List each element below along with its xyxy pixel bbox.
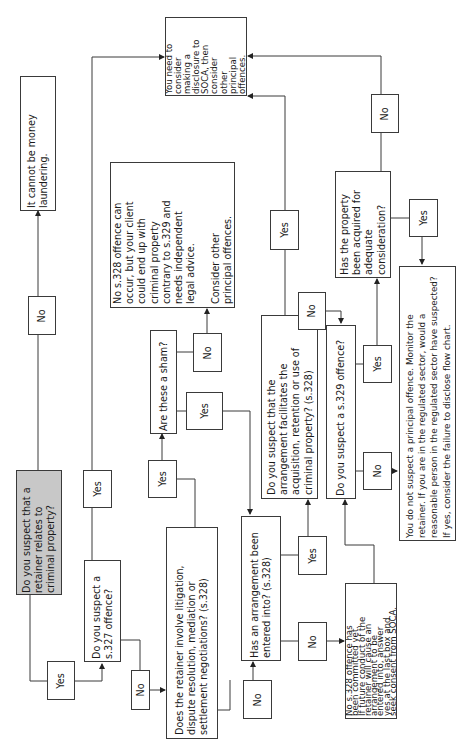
edge-label-facilitates-no: No bbox=[298, 292, 326, 330]
not-money-laundering-text: It cannot be money laundering. bbox=[26, 80, 50, 208]
sham-question-box: Are these a sham? bbox=[150, 330, 177, 434]
edge-label-litigation-yes: Yes bbox=[148, 460, 177, 498]
s329-question-box: Do you suspect a s.329 offence? bbox=[326, 325, 356, 499]
edge-label-consideration-yes: Yes bbox=[409, 199, 438, 237]
edge-label-consideration-no: No bbox=[371, 94, 399, 133]
no-principal-offence-box: You do not suspect a principal offence. … bbox=[399, 266, 456, 541]
edge-label-text: Yes bbox=[198, 403, 210, 419]
edge-label-start-yes: Yes bbox=[47, 661, 75, 700]
not-money-laundering-box: It cannot be money laundering. bbox=[20, 76, 56, 211]
edge-label-text: Yes bbox=[306, 548, 318, 564]
no-principal-offence-text: You do not suspect a principal offence. … bbox=[403, 270, 452, 538]
consideration-question-box: Has the property been acquired for adequ… bbox=[335, 171, 391, 278]
edge-label-text: No bbox=[36, 309, 48, 322]
start-question-box: Do you suspect that a retainer relates t… bbox=[16, 470, 62, 595]
arrangement-question-box: Has an arrangement been entered into? (s… bbox=[241, 516, 281, 661]
edge-label-text: Yes bbox=[91, 481, 103, 497]
edge-label-arrangement-yes: Yes bbox=[298, 536, 327, 575]
edge-label-text: No bbox=[306, 304, 318, 317]
litigation-question-text: Does the retainer involve litigation, di… bbox=[174, 531, 211, 735]
consideration-question-text: Has the property been acquired for adequ… bbox=[339, 175, 388, 275]
litigation-question-box: Does the retainer involve litigation, di… bbox=[166, 527, 218, 739]
edge-label-s329-yes: Yes bbox=[363, 345, 392, 383]
edge-label-sham-yes: Yes bbox=[186, 392, 223, 430]
edge-label-sham-no: No bbox=[193, 333, 222, 372]
no-s328-can-occur-box: No s.328 offence can occur, but your cli… bbox=[110, 162, 235, 308]
facilitates-question-box: Do you suspect that the arrangement faci… bbox=[261, 315, 318, 499]
disclosure-outcome-box: You need to consider making a disclosure… bbox=[165, 17, 247, 96]
edge-label-text: No bbox=[379, 107, 391, 120]
edge-label-text: Yes bbox=[371, 356, 383, 372]
edge-label-s327-no: No bbox=[131, 670, 150, 710]
edge-label-text: No bbox=[201, 346, 213, 359]
edge-label-start-no: No bbox=[28, 296, 56, 335]
no-s328-yet-text: No s.328 offence has been committed yet.… bbox=[346, 586, 396, 716]
edge-label-text: No bbox=[134, 683, 146, 696]
facilitates-question-text: Do you suspect that the arrangement faci… bbox=[265, 319, 314, 495]
s329-question-text: Do you suspect a s.329 offence? bbox=[335, 328, 347, 496]
edge-label-text: Yes bbox=[278, 222, 290, 238]
edge-label-text: No bbox=[306, 635, 318, 648]
sham-question-text: Are these a sham? bbox=[157, 333, 169, 431]
no-s328-can-occur-text: No s.328 offence can occur, but your cli… bbox=[111, 166, 233, 304]
edge-label-text: Yes bbox=[156, 471, 168, 487]
edge-label-text: Yes bbox=[417, 210, 429, 226]
s327-question-text: Do you suspect a s.327 offence? bbox=[90, 563, 114, 659]
edge-label-text: No bbox=[371, 464, 383, 477]
edge-label-text: No bbox=[251, 693, 263, 706]
start-question-text: Do you suspect that a retainer relates t… bbox=[21, 473, 58, 593]
edge-label-facilitates-yes: Yes bbox=[270, 210, 299, 250]
arrangement-question-text: Has an arrangement been entered into? (s… bbox=[249, 520, 273, 658]
s327-question-box: Do you suspect a s.327 offence? bbox=[84, 560, 121, 662]
edge-label-text: Yes bbox=[55, 673, 67, 689]
disclosure-outcome-text: You need to consider making a disclosure… bbox=[165, 20, 247, 94]
edge-label-s329-no: No bbox=[363, 452, 392, 490]
no-s328-yet-box: No s.328 offence has been committed yet.… bbox=[345, 583, 397, 719]
edge-label-s327-yes: Yes bbox=[83, 470, 112, 508]
edge-label-arrangement-no: No bbox=[298, 622, 327, 661]
edge-label-litigation-no: No bbox=[243, 680, 272, 719]
